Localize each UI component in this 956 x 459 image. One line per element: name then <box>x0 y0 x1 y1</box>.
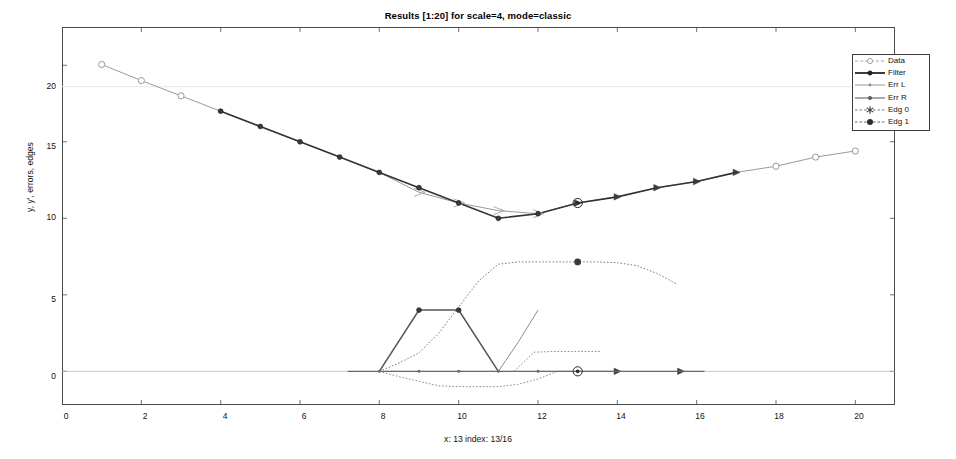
xtick-label-8: 8 <box>368 411 398 421</box>
x-axis-label: x: 13 index: 13/16 <box>0 434 956 444</box>
edg0-trace <box>379 310 498 371</box>
xtick-label-20: 20 <box>844 411 874 421</box>
xtick-label-6: 6 <box>289 411 319 421</box>
legend-label-data: Data <box>887 55 905 67</box>
legend-row-filter[interactable]: Filter <box>853 67 929 79</box>
legend-row-edg-1[interactable]: Edg 1 <box>853 116 929 128</box>
filter-point-marker <box>337 155 342 160</box>
filter-point-marker <box>496 216 501 221</box>
filter-point-marker <box>417 185 422 190</box>
cursor-highlight-dot <box>576 201 580 205</box>
legend[interactable]: Data Filter Err L Err R <box>852 54 930 131</box>
edg0-marker <box>417 308 422 313</box>
legend-label-err-l: Err L <box>887 79 905 91</box>
filter-point-marker <box>693 178 700 184</box>
legend-label-edg-0: Edg 0 <box>887 104 909 116</box>
legend-row-data[interactable]: Data <box>853 55 929 67</box>
legend-row-edg-0[interactable]: Edg 0 <box>853 104 929 116</box>
legend-marker-hexagram-icon <box>853 116 887 128</box>
legend-row-err-r[interactable]: Err R <box>853 92 929 104</box>
filter-point-marker <box>377 170 382 175</box>
xtick-label-0: 0 <box>51 411 81 421</box>
data-point-marker <box>813 154 819 160</box>
data-point-marker <box>99 61 105 67</box>
cursor-highlight-dot <box>576 370 580 374</box>
filter-point-marker <box>218 109 223 114</box>
xtick-label-18: 18 <box>764 411 794 421</box>
y-axis-label: y, y', errors, edges <box>25 107 35 247</box>
filter-point-marker <box>258 124 263 129</box>
err-r-rise-trace <box>498 310 538 371</box>
legend-marker-filled-dot-icon <box>853 67 887 79</box>
data-point-marker <box>178 93 184 99</box>
xtick-label-14: 14 <box>606 411 636 421</box>
ytick-label-20: 20 <box>24 81 56 91</box>
ytick-label-0: 0 <box>24 371 56 381</box>
legend-row-err-l[interactable]: Err L <box>853 79 929 91</box>
dotted-upper-trace <box>379 262 677 371</box>
filter-point-marker <box>733 169 740 175</box>
filter-point-marker <box>614 194 621 200</box>
err-r-plateau-trace <box>514 351 601 371</box>
data-point-marker <box>138 77 144 83</box>
data-point-marker <box>773 163 779 169</box>
xtick-label-16: 16 <box>685 411 715 421</box>
ytick-label-5: 5 <box>24 294 56 304</box>
filter-point-marker <box>654 184 661 190</box>
legend-label-err-r: Err R <box>887 92 907 104</box>
legend-marker-star-icon <box>853 104 887 116</box>
xtick-label-2: 2 <box>130 411 160 421</box>
filter-point-marker <box>456 201 461 206</box>
legend-marker-open-circle-icon <box>853 55 887 67</box>
edg0-marker <box>456 308 461 313</box>
xtick-label-10: 10 <box>447 411 477 421</box>
filter-point-marker <box>298 139 303 144</box>
edg1-peak-marker <box>574 259 581 266</box>
legend-marker-err-r-icon <box>853 92 887 104</box>
series-line-filter <box>221 111 737 218</box>
legend-label-edg-1: Edg 1 <box>887 116 909 128</box>
filter-point-marker <box>536 211 541 216</box>
legend-label-filter: Filter <box>887 67 906 79</box>
plot-drawing-area <box>62 27 895 405</box>
legend-marker-small-dot-icon <box>853 79 887 91</box>
data-point-marker <box>852 148 858 154</box>
figure-canvas: Results [1:20] for scale=4, mode=classic… <box>0 0 956 459</box>
plot-title: Results [1:20] for scale=4, mode=classic <box>0 10 956 21</box>
xtick-label-12: 12 <box>527 411 557 421</box>
xtick-label-4: 4 <box>210 411 240 421</box>
